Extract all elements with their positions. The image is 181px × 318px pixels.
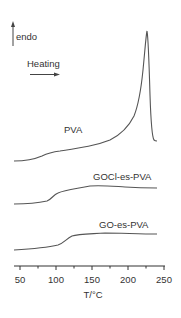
heating-label: Heating	[27, 58, 60, 69]
series-go-curve	[14, 233, 157, 250]
endo-label: endo	[16, 31, 37, 42]
series-goci-curve	[14, 186, 157, 204]
series-label-go: GO-es-PVA	[99, 219, 149, 230]
x-axis-label: T/°C	[83, 289, 102, 300]
dsc-chart: endo Heating PVA GOCl-es-PVA GO-es-PVA 5…	[0, 0, 181, 318]
x-tick-150: 150	[84, 274, 100, 285]
x-tick-200: 200	[120, 274, 136, 285]
series-pva-curve	[14, 31, 157, 161]
heating-arrow-icon	[30, 73, 60, 77]
x-tick-100: 100	[48, 274, 64, 285]
x-axis	[14, 266, 165, 270]
endo-arrow-icon	[11, 21, 15, 46]
x-tick-250: 250	[156, 274, 172, 285]
series-label-goci: GOCl-es-PVA	[93, 171, 152, 182]
series-label-pva: PVA	[64, 124, 83, 135]
x-tick-50: 50	[15, 274, 26, 285]
